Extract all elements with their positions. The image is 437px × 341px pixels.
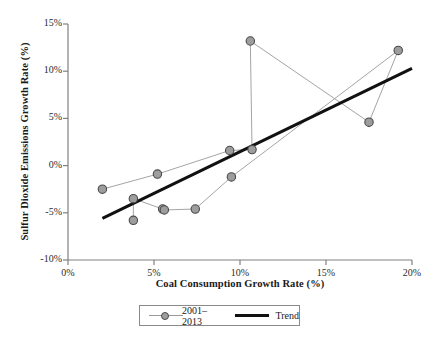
- legend-trend-label: Trend: [275, 310, 299, 321]
- y-tick-label: 0%: [2, 159, 62, 170]
- x-axis-title: Coal Consumption Growth Rate (%): [68, 278, 412, 289]
- x-tick-label: 10%: [210, 267, 270, 278]
- x-tick-label: 20%: [382, 267, 437, 278]
- legend-item-trend: Trend: [235, 310, 299, 321]
- scatter-plot: [0, 0, 437, 341]
- x-tick-label: 15%: [296, 267, 356, 278]
- x-tick-label: 0%: [38, 267, 98, 278]
- y-axis-title: Sulfur Dioxide Emissions Growth Rate (%): [19, 22, 30, 262]
- chart-legend: 2001–2013 Trend: [139, 305, 300, 326]
- legend-trend-line-icon: [235, 314, 269, 317]
- y-tick-label: 5%: [2, 111, 62, 122]
- legend-series-marker-icon: [149, 310, 176, 321]
- y-tick-label: -10%: [2, 253, 62, 264]
- x-tick-label: 5%: [124, 267, 184, 278]
- y-tick-label: -5%: [2, 206, 62, 217]
- chart-container: Sulfur Dioxide Emissions Growth Rate (%)…: [0, 0, 437, 341]
- y-tick-label: 15%: [2, 17, 62, 28]
- legend-series-label: 2001–2013: [182, 305, 218, 327]
- y-tick-label: 10%: [2, 64, 62, 75]
- legend-item-series: 2001–2013: [149, 305, 217, 327]
